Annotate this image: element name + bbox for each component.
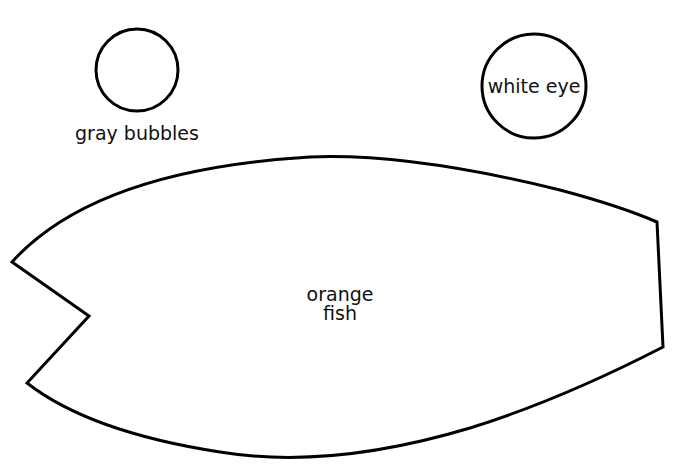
bubble-label: gray bubbles [70,123,204,143]
fish-label-line1: orange [290,284,390,304]
fish-label-line2: fish [290,303,390,323]
template-canvas [0,0,674,473]
eye-label: white eye [484,76,584,96]
bubble-circle [96,29,178,111]
